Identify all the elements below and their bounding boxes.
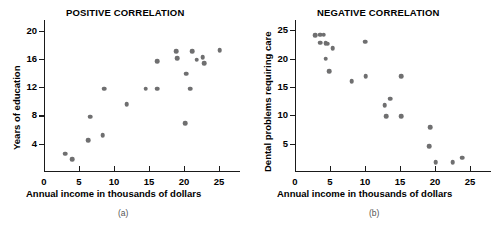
y-tick bbox=[39, 31, 45, 32]
data-point bbox=[190, 49, 195, 54]
x-tick bbox=[184, 166, 185, 172]
x-tick bbox=[435, 166, 436, 172]
y-tick-label: 15 bbox=[264, 82, 288, 92]
data-point bbox=[326, 42, 331, 47]
x-axis-label: Annual income in thousands of dollars bbox=[277, 188, 452, 199]
y-tick-label: 5 bbox=[264, 139, 288, 149]
data-point bbox=[349, 79, 354, 84]
data-point bbox=[399, 114, 404, 119]
y-tick bbox=[39, 115, 45, 116]
x-tick bbox=[79, 166, 80, 172]
data-point bbox=[217, 48, 222, 53]
x-tick bbox=[470, 166, 471, 172]
y-tick-label: 12 bbox=[13, 82, 37, 92]
data-point bbox=[428, 125, 433, 130]
data-point bbox=[427, 144, 432, 149]
data-point bbox=[331, 46, 336, 51]
plot-area-b: 5101520250510152025 bbox=[295, 20, 491, 172]
x-tick-label: 25 bbox=[207, 177, 231, 187]
x-tick-label: 20 bbox=[172, 177, 196, 187]
data-point bbox=[102, 86, 107, 91]
x-tick-label: 20 bbox=[423, 177, 447, 187]
x-tick-label: 15 bbox=[137, 177, 161, 187]
x-tick bbox=[219, 166, 220, 172]
panel-caption: (b) bbox=[369, 208, 379, 218]
x-axis-line bbox=[44, 171, 240, 172]
data-point bbox=[399, 74, 404, 79]
panel-title: NEGATIVE CORRELATION bbox=[317, 7, 439, 18]
x-tick bbox=[365, 166, 366, 172]
y-tick bbox=[290, 30, 296, 31]
plot-area-a: 481216200510152025 bbox=[44, 20, 240, 172]
data-point bbox=[450, 160, 455, 165]
x-tick bbox=[400, 166, 401, 172]
x-tick-label: 10 bbox=[102, 177, 126, 187]
data-point bbox=[86, 138, 91, 143]
data-point bbox=[363, 39, 368, 44]
data-point bbox=[184, 71, 189, 76]
x-tick bbox=[330, 166, 331, 172]
y-tick bbox=[39, 87, 45, 88]
data-point bbox=[88, 115, 93, 120]
y-tick-label: 20 bbox=[13, 26, 37, 36]
y-axis-label: Years of education bbox=[11, 66, 22, 150]
data-point bbox=[183, 121, 188, 126]
y-tick bbox=[39, 59, 45, 60]
data-point bbox=[201, 55, 206, 60]
y-tick bbox=[290, 59, 296, 60]
panel-negative-correlation: NEGATIVE CORRELATION Dental problems req… bbox=[251, 0, 502, 238]
y-tick bbox=[290, 87, 296, 88]
data-point bbox=[70, 157, 75, 162]
panel-caption: (a) bbox=[118, 208, 128, 218]
data-point bbox=[327, 69, 332, 74]
data-point bbox=[174, 49, 179, 54]
data-point bbox=[188, 86, 193, 91]
x-tick-label: 10 bbox=[353, 177, 377, 187]
data-point bbox=[388, 97, 393, 102]
scatterplot-figure: POSITIVE CORRELATION Years of education … bbox=[0, 0, 503, 238]
y-axis-line bbox=[44, 20, 45, 172]
y-tick bbox=[39, 144, 45, 145]
x-axis-line bbox=[295, 171, 491, 172]
y-tick-label: 8 bbox=[13, 110, 37, 120]
data-point bbox=[63, 151, 68, 156]
data-point bbox=[143, 86, 148, 91]
data-point bbox=[175, 56, 180, 61]
x-tick-label: 25 bbox=[458, 177, 482, 187]
data-point bbox=[324, 56, 329, 61]
data-point bbox=[124, 102, 129, 107]
data-point bbox=[155, 59, 160, 64]
y-tick-label: 16 bbox=[13, 54, 37, 64]
y-tick-label: 4 bbox=[13, 139, 37, 149]
data-point bbox=[313, 33, 318, 38]
x-tick-label: 0 bbox=[32, 177, 56, 187]
x-tick bbox=[114, 166, 115, 172]
data-point bbox=[321, 32, 326, 37]
y-tick bbox=[290, 115, 296, 116]
x-tick-label: 5 bbox=[67, 177, 91, 187]
y-axis-line bbox=[295, 20, 296, 172]
x-axis-label: Annual income in thousands of dollars bbox=[26, 188, 201, 199]
x-tick-label: 0 bbox=[283, 177, 307, 187]
x-tick-label: 15 bbox=[388, 177, 412, 187]
data-point bbox=[101, 133, 106, 138]
faint-cutoff-caption bbox=[6, 228, 8, 237]
x-tick bbox=[149, 166, 150, 172]
y-tick-label: 20 bbox=[264, 54, 288, 64]
y-tick bbox=[290, 144, 296, 145]
y-tick-label: 10 bbox=[264, 110, 288, 120]
data-point bbox=[384, 114, 389, 119]
panel-positive-correlation: POSITIVE CORRELATION Years of education … bbox=[0, 0, 251, 238]
x-tick-label: 5 bbox=[318, 177, 342, 187]
panel-title: POSITIVE CORRELATION bbox=[66, 7, 184, 18]
data-point bbox=[155, 86, 160, 91]
data-point bbox=[194, 57, 199, 62]
data-point bbox=[382, 103, 387, 108]
y-tick-label: 25 bbox=[264, 25, 288, 35]
data-point bbox=[318, 40, 323, 45]
data-point bbox=[363, 74, 368, 79]
data-point bbox=[202, 61, 207, 66]
data-point bbox=[460, 156, 465, 161]
data-point bbox=[433, 160, 438, 165]
